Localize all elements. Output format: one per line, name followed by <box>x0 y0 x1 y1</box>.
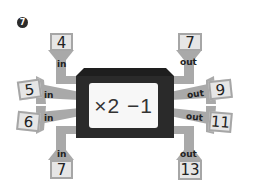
output-box-top-right: 7 <box>178 33 202 51</box>
output-box-bottom-right: 13 <box>178 160 202 180</box>
input-box-left-upper: 5 <box>17 78 42 100</box>
input-box-left-lower: 6 <box>16 111 41 132</box>
input-box-top-left: 4 <box>50 33 73 51</box>
input-box-bottom-left: 7 <box>50 160 73 179</box>
machine-rule: ×2 −1 <box>89 83 158 128</box>
problem-number-badge: 7 <box>17 17 28 28</box>
output-label-right-lower: out <box>186 111 204 123</box>
function-machine-diagram: 7 ×2 −1 4 in 5 in 6 in 7 in 7 out 9 out … <box>0 0 253 191</box>
output-box-right-lower: 11 <box>208 111 233 133</box>
input-label-left-upper: in <box>44 90 54 100</box>
input-label-left-lower: in <box>44 113 54 123</box>
output-box-right-upper: 9 <box>208 79 233 100</box>
output-label-top-right: out <box>180 57 197 67</box>
output-label-bottom-right: out <box>180 149 197 159</box>
input-label-bottom-left: in <box>57 149 67 159</box>
input-label-top-left: in <box>57 59 67 69</box>
